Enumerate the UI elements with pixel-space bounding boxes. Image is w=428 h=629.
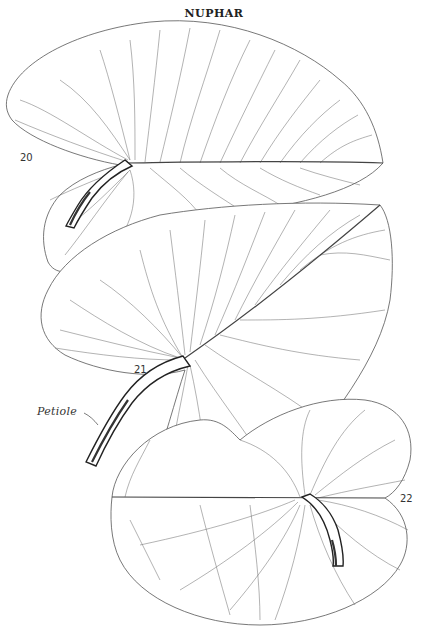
botanical-plate: NUPHAR (0, 0, 428, 629)
figure-number-20: 20 (20, 152, 33, 163)
figure-number-22: 22 (400, 493, 413, 504)
leaf-figure-22 (111, 399, 411, 625)
leaf-illustration (0, 0, 428, 629)
figure-number-21: 21 (134, 364, 147, 375)
petiole-callout-line (84, 413, 98, 425)
petiole-callout-label: Petiole (37, 405, 77, 418)
